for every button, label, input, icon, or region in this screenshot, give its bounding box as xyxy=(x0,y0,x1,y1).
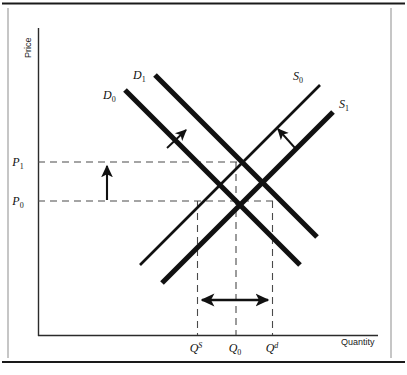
diagram-canvas: Price Quantity D0 D1 S0 S1 P1 P0 QS Q0 Q… xyxy=(0,0,407,375)
y-axis-title: Price xyxy=(23,37,33,58)
supply-demand-figure: Price Quantity D0 D1 S0 S1 P1 P0 QS Q0 Q… xyxy=(0,0,407,375)
x-axis-title: Quantity xyxy=(341,337,375,347)
figure-background xyxy=(0,0,407,375)
